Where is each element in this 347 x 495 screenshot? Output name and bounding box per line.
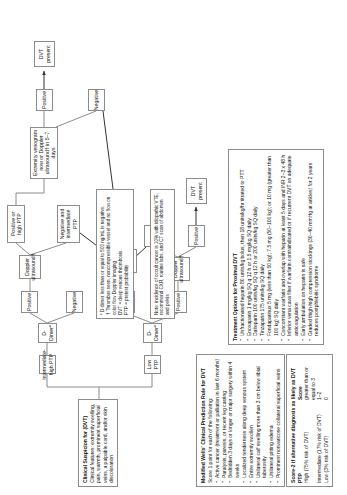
footnote-line: PTP = pretest probability bbox=[124, 193, 130, 315]
node-dvt-present-venogram: DVT present bbox=[34, 41, 55, 67]
score-value: 0 bbox=[323, 358, 330, 400]
treatment-option: Tinzaparin 175 units/kg SQ daily bbox=[259, 153, 266, 336]
node-negative-upper: Negative bbox=[66, 291, 83, 313]
score-value: greater than or equal to 3 bbox=[303, 358, 316, 400]
note-text: Note: incidence of occult cancer is 10% … bbox=[154, 193, 172, 315]
ptp-score-box: Score-2 if alternative diagnosis as like… bbox=[286, 354, 333, 487]
footnote-line: † Thrombus seen, noncompressible vessel … bbox=[106, 193, 118, 315]
occult-cancer-note-box: Note: incidence of occult cancer is 10% … bbox=[150, 189, 175, 319]
wells-subtitle: Score 1 point for each of the following: bbox=[207, 358, 214, 483]
wells-criterion: Unilateral pitting edema bbox=[268, 358, 275, 478]
wells-criterion: Paralysis, paresis, or recent leg castin… bbox=[221, 358, 228, 478]
ptp-value: Low (3% risk of DVT) bbox=[323, 400, 330, 483]
node-negative-and-intermediate-ptp: Negative and intermediate PTP bbox=[57, 205, 80, 243]
treatment-title: Treatment Options for Proximal DVT bbox=[232, 153, 239, 341]
wells-prediction-rule-box: Modified Wells' Clinical Prediction Rule… bbox=[196, 354, 285, 487]
footnote-line: DVT = deep venous thrombosis. bbox=[118, 193, 124, 315]
wells-criterion: Unilateral calf swelling more than 3 cm … bbox=[255, 358, 268, 478]
wells-criteria-list: Active cancer (treatment or palliation i… bbox=[214, 358, 282, 483]
score-title: Score-2 if alternative diagnosis as like… bbox=[290, 358, 297, 483]
treatment-option: Unfractionated heparin 80 units/kg bolus… bbox=[239, 153, 246, 336]
clinical-suspicion-box: Clinical Suspicion for (DVT) Clinical fe… bbox=[78, 399, 118, 487]
wells-title: Modified Wells' Clinical Prediction Rule… bbox=[200, 358, 207, 483]
treatment-option: Concomitant warfarin and overlap with he… bbox=[280, 153, 287, 336]
table-row: High (75% risk of DVT) greater than or e… bbox=[303, 358, 316, 483]
node-positive-upper: Positive bbox=[21, 291, 38, 313]
clinical-suspicion-body: Clinical features: extremity swelling, p… bbox=[89, 403, 115, 483]
footnote-line: * D-dimer less than or equal to 500 ng/m… bbox=[100, 193, 106, 315]
treatment-option: Graded thigh-high compression stockings … bbox=[307, 153, 320, 336]
treatment-option: Enoxaparin 1 mg/kg SQ q 12 h or 1.5 mg/k… bbox=[246, 153, 253, 336]
wells-criterion: Prominent nonvaricose collateral superfi… bbox=[275, 358, 282, 478]
node-dvt-present-lower: DVT present bbox=[186, 178, 207, 204]
node-intermediate-high-ptp: Intermediate-high PTP bbox=[39, 355, 56, 374]
node-positive-or-high-ptp: Positive or high PTP bbox=[7, 205, 25, 243]
wells-criterion: Localized tenderness along deep venous s… bbox=[241, 358, 248, 478]
node-positive-venogram: Positive bbox=[36, 89, 53, 111]
node-d-dimer-low: D-Dimer* bbox=[143, 323, 162, 343]
treatment-option: Inferior vena cava filter if warfarin co… bbox=[286, 153, 299, 336]
node-d-dimer-intermediate: D-Dimer* bbox=[38, 323, 57, 343]
node-extremity-venogram: Extremity venogram now or Doppler ultras… bbox=[30, 127, 58, 179]
treatment-option: Fondaparinux 5 mg (less than 50 kg); 7.5… bbox=[266, 153, 279, 336]
node-doppler-ultrasound-upper: Doppler ultrasound† bbox=[19, 255, 41, 279]
table-row: Low (3% risk of DVT) 0 bbox=[323, 358, 330, 483]
treatment-options-list: Unfractionated heparin 80 units/kg bolus… bbox=[239, 153, 320, 341]
wells-criterion: Active cancer (treatment or palliation i… bbox=[214, 358, 221, 478]
clinical-suspicion-title: Clinical Suspicion for (DVT) bbox=[82, 403, 89, 483]
dvt-algorithm-canvas: Clinical Suspicion for (DVT) Clinical fe… bbox=[0, 0, 347, 495]
node-positive-doppler-lower: Positive bbox=[188, 225, 205, 247]
ptp-value: High (75% risk of DVT) bbox=[303, 400, 316, 483]
node-negative-venogram: Negative bbox=[88, 89, 105, 111]
treatment-options-box: Treatment Options for Proximal DVT Unfra… bbox=[228, 149, 324, 345]
abbreviations-footnote-box: * D-dimer less than or equal to 500 ng/m… bbox=[96, 189, 134, 319]
treatment-option: Early ambulation on heparin is safe bbox=[300, 153, 307, 336]
treatment-option: Dalteparin 100 units/kg SQ q 12 h or 200… bbox=[252, 153, 259, 336]
wells-criterion: Entire extremity swollen bbox=[248, 358, 255, 478]
ptp-score-table: PTP Score High (75% risk of DVT) greater… bbox=[297, 358, 330, 483]
wells-criterion: Bedridden 3 days or longer or major surg… bbox=[227, 358, 240, 478]
node-low-ptp: Low PTP bbox=[144, 355, 161, 374]
